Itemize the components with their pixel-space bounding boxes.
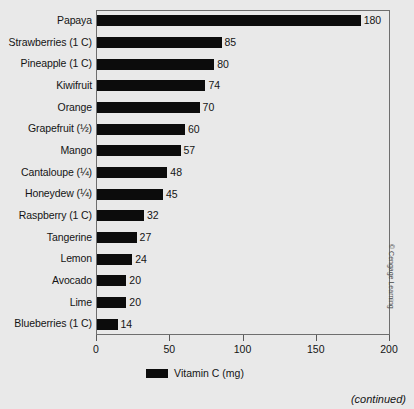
bar-value-label: 80 — [217, 59, 229, 70]
bar — [97, 80, 205, 91]
bars-layer: 1808580747060574845322724202014 — [97, 10, 390, 335]
bar-value-label: 20 — [129, 275, 141, 286]
x-axis: 050100150200 — [96, 335, 390, 365]
category-axis: PapayaStrawberries (1 C)Pineapple (1 C)K… — [0, 10, 92, 335]
bar — [97, 167, 167, 178]
bar-value-label: 48 — [170, 167, 182, 178]
category-label: Cantaloupe (¼) — [0, 167, 92, 177]
bar — [97, 189, 163, 200]
category-label: Orange — [0, 102, 92, 112]
category-label: Blueberries (1 C) — [0, 318, 92, 328]
category-label: Lime — [0, 297, 92, 307]
category-label: Pineapple (1 C) — [0, 58, 92, 68]
bar-value-label: 70 — [203, 102, 215, 113]
x-axis-tick-label: 50 — [163, 344, 175, 355]
bar — [97, 210, 144, 221]
bar-value-label: 45 — [166, 189, 178, 200]
bar-value-label: 180 — [364, 15, 382, 26]
bar — [97, 254, 132, 265]
category-label: Strawberries (1 C) — [0, 37, 92, 47]
bar-value-label: 14 — [121, 319, 133, 330]
continued-note: (continued) — [351, 393, 406, 405]
category-label: Papaya — [0, 15, 92, 25]
bar — [97, 59, 214, 70]
x-axis-tick — [389, 335, 390, 341]
category-label: Mango — [0, 145, 92, 155]
bar — [97, 37, 222, 48]
bar — [97, 15, 361, 26]
vitamin-c-bar-chart-figure: PapayaStrawberries (1 C)Pineapple (1 C)K… — [0, 0, 414, 409]
category-label: Grapefruit (½) — [0, 123, 92, 133]
bar — [97, 275, 126, 286]
x-axis-tick-label: 200 — [380, 344, 398, 355]
bar-value-label: 85 — [225, 37, 237, 48]
category-label: Lemon — [0, 253, 92, 263]
chart-legend: Vitamin C (mg) — [0, 368, 390, 379]
legend-label: Vitamin C (mg) — [174, 368, 244, 379]
bar-value-label: 32 — [147, 210, 159, 221]
x-axis-tick — [96, 335, 97, 341]
bar-value-label: 57 — [184, 145, 196, 156]
x-axis-tick-label: 150 — [307, 344, 325, 355]
category-label: Avocado — [0, 275, 92, 285]
bar-value-label: 27 — [140, 232, 152, 243]
bar-value-label: 60 — [188, 124, 200, 135]
x-axis-tick-label: 0 — [93, 344, 99, 355]
bar-value-label: 24 — [135, 254, 147, 265]
x-axis-tick — [243, 335, 244, 341]
copyright-credit: © Cengage Learning — [387, 244, 395, 309]
category-label: Raspberry (1 C) — [0, 210, 92, 220]
category-label: Honeydew (¼) — [0, 188, 92, 198]
legend-swatch-icon — [146, 369, 168, 378]
bar — [97, 297, 126, 308]
bar — [97, 124, 185, 135]
bar — [97, 319, 118, 330]
x-axis-tick — [316, 335, 317, 341]
bar — [97, 145, 181, 156]
bar-value-label: 20 — [129, 297, 141, 308]
bar-value-label: 74 — [208, 80, 220, 91]
bar — [97, 102, 200, 113]
x-axis-tick-label: 100 — [234, 344, 252, 355]
bar — [97, 232, 137, 243]
category-label: Kiwifruit — [0, 80, 92, 90]
x-axis-tick — [169, 335, 170, 341]
category-label: Tangerine — [0, 232, 92, 242]
